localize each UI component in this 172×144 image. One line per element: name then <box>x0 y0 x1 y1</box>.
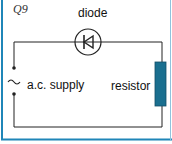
resistor-label: resistor <box>111 79 150 93</box>
question-number: Q9 <box>13 2 28 17</box>
diode-icon <box>75 29 101 55</box>
diode-label: diode <box>78 6 107 20</box>
ac-supply-icon <box>8 66 20 96</box>
ac-supply-label: a.c. supply <box>27 78 84 92</box>
figure-frame: Q9 diode a.c. supply resistor <box>0 0 172 144</box>
resistor-icon <box>155 62 166 106</box>
circuit-diagram <box>0 0 172 144</box>
